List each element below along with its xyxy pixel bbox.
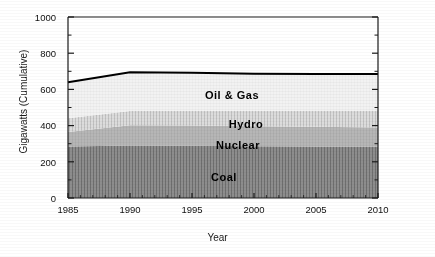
band-label-coal: Coal <box>211 171 237 183</box>
band-label-oil-gas: Oil & Gas <box>205 89 259 101</box>
plot-area <box>0 0 435 257</box>
band-label-hydro: Hydro <box>229 118 263 130</box>
chart-container: Gigawatts (Cumulative) 1000 800 600 400 … <box>0 0 435 257</box>
band-label-nuclear: Nuclear <box>216 139 260 151</box>
